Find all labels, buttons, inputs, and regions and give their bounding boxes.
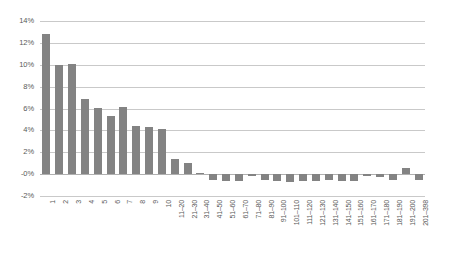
x-axis-tick-label: 11–20 — [178, 200, 186, 254]
bar — [42, 34, 50, 174]
x-axis-tick-label: 61–70 — [242, 200, 250, 254]
x-axis-tick-label: 101–110 — [293, 200, 301, 254]
bar — [119, 107, 127, 174]
bar — [158, 129, 166, 174]
x-axis-tick-label: 6 — [114, 200, 122, 254]
bar — [261, 174, 269, 180]
bar — [209, 174, 217, 180]
x-axis-tick-label: 181–190 — [396, 200, 404, 254]
bar-chart: 14%12%10%8%6%4%2%-0%-2% 1234567891011–20… — [0, 0, 449, 259]
bar — [171, 159, 179, 174]
x-axis-tick-label: 1 — [49, 200, 57, 254]
bar — [222, 174, 230, 181]
y-axis-tick-label: 2% — [0, 148, 34, 156]
x-axis-tick-label: 7 — [126, 200, 134, 254]
y-axis-tick-label: 10% — [0, 61, 34, 69]
x-axis-tick-label: 4 — [88, 200, 96, 254]
bar — [248, 174, 256, 176]
bar — [415, 174, 423, 180]
bar — [81, 99, 89, 174]
x-axis-tick-label: 41–50 — [216, 200, 224, 254]
x-axis-tick-label: 9 — [152, 200, 160, 254]
x-axis-tick-label: 10 — [165, 200, 173, 254]
bar — [286, 174, 294, 182]
x-axis-tick-label: 121–130 — [319, 200, 327, 254]
bar — [376, 174, 384, 177]
bar — [184, 163, 192, 174]
x-axis-tick-label: 171–180 — [383, 200, 391, 254]
y-axis-tick-label: 14% — [0, 17, 34, 25]
y-axis-tick-label: 4% — [0, 126, 34, 134]
bar — [338, 174, 346, 181]
x-axis-tick-label: 51–60 — [229, 200, 237, 254]
bar — [325, 174, 333, 180]
bar — [94, 108, 102, 174]
bar — [273, 174, 281, 181]
x-axis-tick-label: 201–398 — [422, 200, 430, 254]
bar — [68, 64, 76, 174]
x-axis-tick-label: 21–30 — [191, 200, 199, 254]
x-axis-tick-label: 111–120 — [306, 200, 314, 254]
x-axis-tick-label: 91–100 — [280, 200, 288, 254]
plot-area — [40, 21, 425, 196]
x-axis-tick-label: 131–140 — [332, 200, 340, 254]
x-axis-line — [40, 196, 425, 197]
bar — [363, 174, 371, 176]
bar — [312, 174, 320, 181]
bar — [196, 173, 204, 174]
bar — [132, 126, 140, 174]
bar — [235, 174, 243, 181]
y-axis-tick-label: -2% — [0, 192, 34, 200]
bar — [389, 174, 397, 179]
x-axis-tick-label: 71–80 — [255, 200, 263, 254]
bar — [107, 116, 115, 175]
x-axis-tick-label: 161–170 — [370, 200, 378, 254]
bar-series — [40, 21, 425, 196]
bar — [402, 168, 410, 174]
y-axis-tick-label: 6% — [0, 105, 34, 113]
x-axis-tick-label: 3 — [75, 200, 83, 254]
y-axis-tick-label: 8% — [0, 83, 34, 91]
x-axis-tick-label: 81–90 — [268, 200, 276, 254]
bar — [350, 174, 358, 181]
x-axis-tick-labels: 1234567891011–2021–3031–4041–5051–6061–7… — [40, 200, 425, 258]
y-axis-tick-label: 12% — [0, 39, 34, 47]
bar — [145, 127, 153, 175]
x-axis-tick-label: 31–40 — [203, 200, 211, 254]
x-axis-tick-label: 5 — [101, 200, 109, 254]
bar — [55, 65, 63, 174]
x-axis-tick-label: 2 — [62, 200, 70, 254]
x-axis-tick-label: 141–150 — [345, 200, 353, 254]
x-axis-tick-label: 151–160 — [357, 200, 365, 254]
bar — [299, 174, 307, 181]
x-axis-tick-label: 191–200 — [409, 200, 417, 254]
y-axis-tick-label: -0% — [0, 170, 34, 178]
x-axis-tick-label: 8 — [139, 200, 147, 254]
